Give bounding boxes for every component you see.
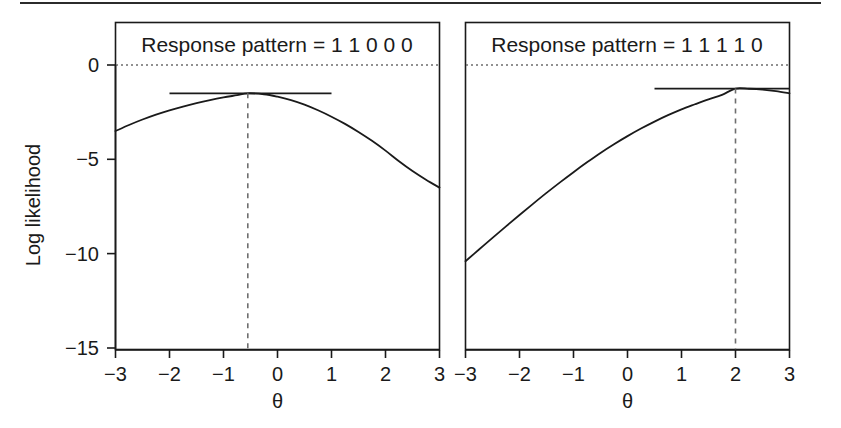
panel-right-xtick-4: 1 [676,363,687,385]
panel-left-xtick-6: 3 [434,363,445,385]
panel-right-xtick-2: −1 [562,363,585,385]
panel-right-xtick-0: −3 [454,363,477,385]
ytick-0: 0 [88,54,99,76]
panel-right-xtick-1: −2 [508,363,531,385]
panel-left-x-axis-label: θ [272,390,283,412]
panel-left-xtick-2: −1 [212,363,235,385]
panel-right-x-axis-label: θ [622,390,633,412]
panel-left-xtick-3: 0 [272,363,283,385]
log-likelihood-panel-chart: Response pattern = 1 1 0 0 0 −3 −2 [0,0,841,428]
ytick-1: −5 [76,148,99,170]
ytick-3: −15 [65,337,99,359]
panel-left-xtick-1: −2 [158,363,181,385]
panel-left-xtick-4: 1 [326,363,337,385]
panel-right-title: Response pattern = 1 1 1 1 0 [491,33,762,56]
panel-left-xtick-0: −3 [104,363,127,385]
panel-right-frame [466,23,790,350]
panel-right: Response pattern = 1 1 1 1 0 −3 −2 −1 0 … [454,23,795,413]
y-axis [107,65,116,350]
panel-left-xtick-5: 2 [380,363,391,385]
panel-left-loglik-curve [116,93,440,187]
panel-left-frame [116,23,440,350]
figure-root: Response pattern = 1 1 0 0 0 −3 −2 [0,0,841,428]
panel-right-x-ticks [466,350,790,358]
panel-right-xtick-6: 3 [784,363,795,385]
ytick-2: −10 [65,243,99,265]
panel-left-title: Response pattern = 1 1 0 0 0 [141,33,412,56]
panel-right-loglik-curve [466,88,790,261]
panel-left-x-ticks [116,350,440,358]
top-horizontal-rule [20,2,821,4]
panel-right-xtick-5: 2 [730,363,741,385]
y-axis-label: Log likelihood [22,144,44,266]
panel-left: Response pattern = 1 1 0 0 0 −3 −2 [22,23,445,413]
panel-right-xtick-3: 0 [622,363,633,385]
